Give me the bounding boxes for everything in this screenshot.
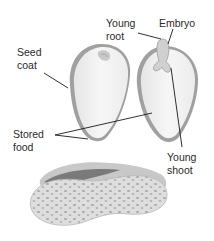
young-root-leader — [138, 33, 161, 39]
label-stored-food: Stored food — [13, 128, 44, 154]
label-young-root: Young root — [106, 17, 135, 43]
label-embryo: Embryo — [159, 17, 195, 30]
left-seed-half — [70, 44, 130, 141]
stored-food-leader-left — [55, 135, 88, 139]
right-seed-half — [137, 39, 198, 142]
seed-coat-leader — [44, 73, 68, 88]
label-seed-coat: Seed coat — [17, 46, 42, 72]
peanut-diagram: Young root Embryo Seed coat Stored food … — [0, 0, 214, 241]
peanut-shell — [30, 162, 167, 225]
embryo-leader — [168, 29, 173, 44]
label-young-shoot: Young shoot — [167, 151, 196, 177]
